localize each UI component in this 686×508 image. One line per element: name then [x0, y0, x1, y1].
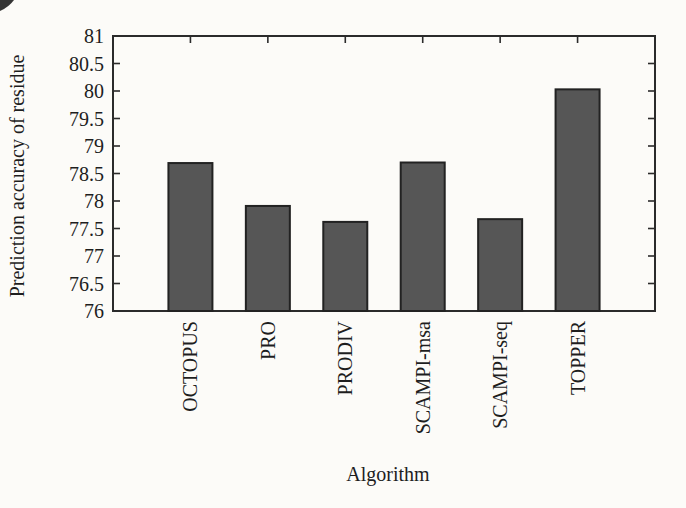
y-tick-label: 81 — [84, 25, 104, 47]
scan-artifact — [0, 0, 14, 11]
y-tick-label: 76.5 — [69, 273, 104, 295]
x-tick-label-scampi-seq: SCAMPI-seq — [489, 321, 512, 429]
chart-plot-area: 7676.57777.57878.57979.58080.581OCTOPUSP… — [69, 25, 655, 434]
x-tick-label-scampi-msa: SCAMPI-msa — [412, 321, 434, 434]
bar-scampi-msa — [401, 163, 445, 312]
bar-topper — [556, 89, 600, 311]
bar-chart: 7676.57777.57878.57979.58080.581OCTOPUSP… — [0, 0, 686, 508]
y-tick-label: 78.5 — [69, 163, 104, 185]
bar-pro — [246, 206, 290, 311]
bar-prodiv — [323, 222, 367, 311]
x-tick-label-topper: TOPPER — [567, 320, 589, 395]
x-axis-title: Algorithm — [346, 463, 430, 486]
scanned-figure-page: 7676.57777.57878.57979.58080.581OCTOPUSP… — [0, 0, 686, 508]
y-tick-label: 80.5 — [69, 53, 104, 75]
y-tick-label: 80 — [84, 80, 104, 102]
bar-scampi-seq — [478, 219, 522, 311]
y-tick-label: 77 — [84, 245, 104, 267]
y-tick-label: 79.5 — [69, 108, 104, 130]
x-tick-label-pro: PRO — [257, 321, 279, 360]
bar-octopus — [168, 163, 212, 311]
y-tick-label: 78 — [84, 190, 104, 212]
y-tick-label: 76 — [84, 300, 104, 322]
y-tick-label: 79 — [84, 135, 104, 157]
x-tick-label-octopus: OCTOPUS — [179, 321, 201, 412]
x-tick-label-prodiv: PRODIV — [334, 320, 356, 395]
y-tick-label: 77.5 — [69, 218, 104, 240]
y-axis-title: Prediction accuracy of residue — [6, 55, 29, 298]
